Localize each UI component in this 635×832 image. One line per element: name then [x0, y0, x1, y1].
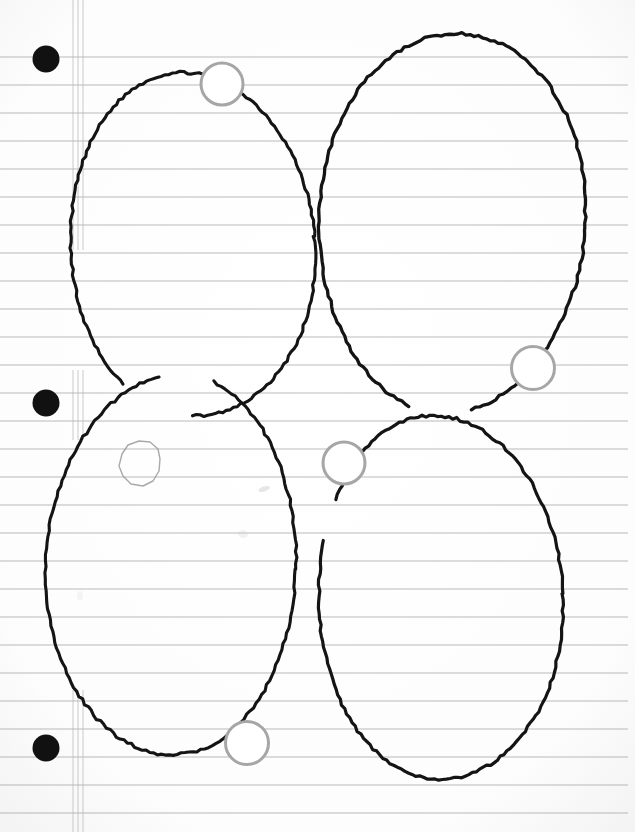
binder-hole	[33, 46, 60, 73]
scan-canvas: Top-left ellipseTop-right ellipseBottom-…	[0, 0, 635, 832]
scanned-page: Hand-drawn ellipses on ruled loose-leaf …	[0, 0, 635, 832]
scan-smudge	[77, 591, 83, 601]
binder-hole	[33, 390, 60, 417]
binder-hole	[33, 735, 60, 762]
